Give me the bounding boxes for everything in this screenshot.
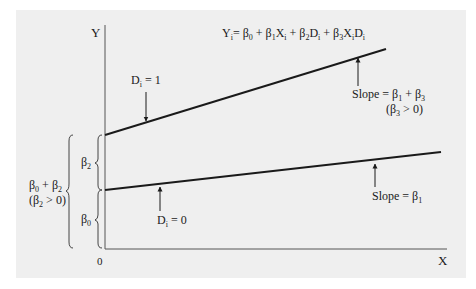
regression-equation: Yi= β0 + β1Xi + β2Di + β3XiDi — [222, 26, 366, 42]
brace-beta0-plus-beta2 — [66, 135, 73, 248]
slope-lower-label: Slope = β1 — [372, 189, 422, 205]
slope-upper-label: Slope = β1 + β3 — [352, 87, 425, 103]
beta2-label: β2 — [81, 155, 91, 171]
beta0-plus-beta2-label: β0 + β2 — [29, 178, 62, 194]
line-d-equals-0 — [105, 152, 441, 190]
origin-label: 0 — [97, 255, 103, 267]
beta0-label: β0 — [81, 212, 91, 228]
slope-upper-condition: (β3 > 0) — [386, 102, 423, 118]
line-d-equals-1 — [105, 49, 386, 135]
dummy-variable-interaction-diagram: Y X 0 Yi= β0 + β1Xi + β2Di + β3XiDi Di =… — [0, 0, 476, 289]
beta2-positive-condition: (β2 > 0) — [29, 193, 66, 209]
d0-label: Di = 0 — [157, 213, 187, 229]
brace-beta2 — [95, 135, 102, 190]
y-axis-label: Y — [91, 25, 101, 40]
brace-beta0 — [95, 190, 102, 248]
x-axis-label: X — [438, 253, 448, 268]
d1-label: Di = 1 — [131, 73, 161, 89]
